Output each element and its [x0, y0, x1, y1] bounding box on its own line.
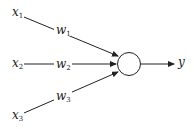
output-label-y: y [178, 56, 185, 68]
weight-label-w1: w1 [56, 24, 71, 38]
diagram-lines [0, 0, 194, 129]
perceptron-diagram: x1 x2 x3 w1 w2 w3 y [0, 0, 194, 129]
weight-label-w3: w3 [56, 90, 71, 104]
input-label-x1: x1 [12, 6, 23, 20]
input-label-x2: x2 [12, 57, 23, 71]
input-label-x3: x3 [12, 109, 23, 123]
edge-x1 [24, 17, 118, 56]
weight-label-w2: w2 [56, 58, 71, 72]
neuron-node [118, 53, 141, 76]
